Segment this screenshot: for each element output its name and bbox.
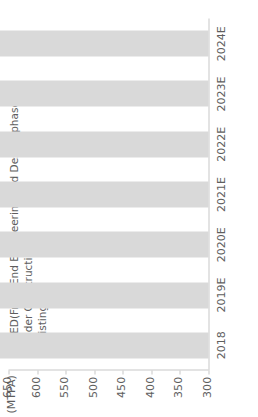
value-axis-tick-label: 400 xyxy=(143,376,156,417)
category-label: 2023E xyxy=(214,73,258,113)
stacked-bar-chart: (MTPA) FEED(Front End Engineering and De… xyxy=(0,0,258,417)
bar-group[interactable] xyxy=(182,193,208,194)
bar-group[interactable] xyxy=(182,92,208,93)
category-label: 2020E xyxy=(214,224,258,264)
value-axis-tick-label: 600 xyxy=(29,376,42,417)
value-axis-tick xyxy=(208,370,209,374)
value-axis-tick xyxy=(65,370,66,374)
value-axis-tick xyxy=(8,370,9,374)
category-label: 2024E xyxy=(214,23,258,63)
bar-group[interactable] xyxy=(182,344,208,345)
rotated-figure-wrapper: (MTPA) FEED(Front End Engineering and De… xyxy=(0,0,258,417)
value-axis-tick-label: 650 xyxy=(0,376,13,417)
value-axis-tick-label: 550 xyxy=(57,376,70,417)
value-axis-tick-label: 500 xyxy=(86,376,99,417)
value-axis-tick-label: 300 xyxy=(200,376,213,417)
value-axis-tick-label: 450 xyxy=(114,376,127,417)
value-axis-tick xyxy=(151,370,152,374)
value-axis-tick xyxy=(122,370,123,374)
bar-group[interactable] xyxy=(182,143,208,144)
bar-segment[interactable] xyxy=(0,131,208,157)
category-label: 2018 xyxy=(214,325,258,365)
category-label: 2021E xyxy=(214,174,258,214)
bar-segment[interactable] xyxy=(0,181,208,207)
bar-group[interactable] xyxy=(182,294,208,295)
bar-group[interactable] xyxy=(182,243,208,244)
category-label: 2022E xyxy=(214,124,258,164)
value-axis-tick xyxy=(179,370,180,374)
bar-segment[interactable] xyxy=(0,231,208,257)
bar-segment[interactable] xyxy=(0,282,208,308)
category-label: 2019E xyxy=(214,275,258,315)
bar-segment[interactable] xyxy=(0,30,208,56)
value-axis-tick-label: 350 xyxy=(171,376,184,417)
value-axis-tick xyxy=(37,370,38,374)
bar-group[interactable] xyxy=(182,42,208,43)
bar-segment[interactable] xyxy=(0,80,208,106)
value-axis-tick xyxy=(94,370,95,374)
bar-segment[interactable] xyxy=(0,332,208,358)
